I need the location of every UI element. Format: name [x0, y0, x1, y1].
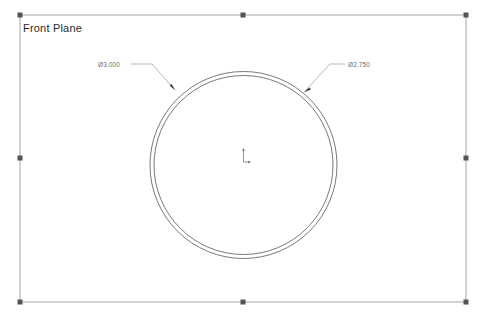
handle-bottom-left[interactable] [18, 300, 23, 305]
sketch-canvas[interactable] [0, 0, 482, 314]
handle-top-right[interactable] [464, 13, 469, 18]
canvas-background [0, 0, 482, 314]
handle-middle-left[interactable] [18, 156, 23, 161]
handle-top-left[interactable] [18, 13, 23, 18]
dimension-label-outer-diameter[interactable]: Ø3.000 [98, 61, 120, 68]
handle-top-center[interactable] [241, 13, 246, 18]
handle-middle-right[interactable] [464, 156, 469, 161]
handle-bottom-center[interactable] [241, 300, 246, 305]
plane-label[interactable]: Front Plane [23, 22, 82, 34]
dimension-label-inner-diameter[interactable]: Ø2.750 [348, 61, 370, 68]
handle-bottom-right[interactable] [464, 300, 469, 305]
